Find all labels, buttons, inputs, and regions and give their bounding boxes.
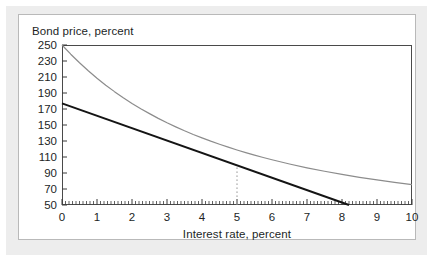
x-tick-label: 3: [164, 211, 170, 223]
y-tick-label: 110: [39, 151, 57, 163]
y-tick-label: 210: [38, 71, 57, 83]
chart-figure: Bond price, percent Interest rate, perce…: [0, 0, 439, 267]
x-tick-label: 5: [234, 211, 240, 223]
x-tick-label: 2: [129, 211, 135, 223]
y-tick-label: 250: [38, 39, 57, 51]
y-tick-label: 150: [38, 119, 57, 131]
tangent-line: [62, 103, 349, 205]
y-tick-label: 170: [38, 103, 57, 115]
y-tick-label: 90: [44, 167, 57, 179]
x-tick-label: 1: [94, 211, 100, 223]
bond-price-curve: [62, 45, 412, 185]
y-tick-label: 50: [44, 199, 57, 211]
data-series-layer: [62, 45, 412, 205]
y-tick-label: 190: [38, 87, 57, 99]
x-tick-label: 8: [339, 211, 345, 223]
x-tick-label: 10: [406, 211, 419, 223]
plot-area: 507090110130150170190210230250 012345678…: [62, 45, 412, 205]
y-tick-label: 130: [38, 135, 57, 147]
y-tick-label: 70: [44, 183, 57, 195]
x-tick-label: 0: [59, 211, 65, 223]
x-axis-title: Interest rate, percent: [62, 228, 412, 240]
y-axis-title: Bond price, percent: [32, 25, 134, 37]
y-tick-label: 230: [38, 55, 57, 67]
x-tick-label: 7: [304, 211, 310, 223]
x-tick-label: 9: [374, 211, 380, 223]
x-tick-label: 6: [269, 211, 275, 223]
x-tick-label: 4: [199, 211, 205, 223]
